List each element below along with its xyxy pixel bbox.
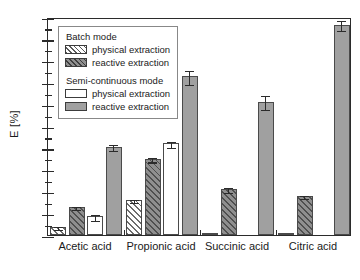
legend-item-batch-reactive: reactive extraction — [65, 57, 170, 68]
legend-item-semi-reactive: reactive extraction — [65, 101, 170, 112]
bar-batch_physical-3 — [278, 233, 294, 235]
x-axis-label-3: Citric acid — [258, 240, 360, 252]
legend-item-semi-physical: physical extraction — [65, 88, 170, 99]
x-axis-tick — [200, 230, 201, 235]
bar-semi_reactive-3 — [334, 25, 350, 235]
bar-semi_reactive-2 — [258, 102, 274, 235]
chart-legend: Batch mode physical extraction reactive … — [58, 26, 178, 119]
x-axis-tick — [276, 230, 277, 235]
bar-semi_reactive-0 — [106, 147, 122, 236]
legend-label-semi-reactive: reactive extraction — [92, 101, 169, 112]
legend-label-semi-physical: physical extraction — [92, 88, 170, 99]
legend-swatch-batch-physical — [65, 45, 87, 54]
x-axis-tick — [124, 230, 125, 235]
legend-label-batch-reactive: reactive extraction — [92, 57, 169, 68]
bar-batch_reactive-2 — [221, 189, 237, 235]
legend-item-batch-physical: physical extraction — [65, 44, 170, 55]
legend-label-batch-physical: physical extraction — [92, 44, 170, 55]
bar-batch_physical-2 — [202, 233, 218, 235]
bar-batch_physical-1 — [126, 200, 142, 235]
y-axis-label: E [%] — [8, 94, 20, 154]
bar-semi_physical-1 — [163, 143, 179, 235]
legend-swatch-semi-reactive — [65, 102, 87, 111]
legend-swatch-semi-physical — [65, 89, 87, 98]
bar-batch_reactive-0 — [69, 207, 85, 235]
legend-group-batch-title: Batch mode — [66, 31, 170, 42]
legend-group-semi-title: Semi-continuous mode — [66, 75, 170, 86]
legend-swatch-batch-reactive — [65, 58, 87, 67]
bar-chart: E [%] 0102030405060708090100 Batch mode … — [0, 0, 360, 280]
bar-batch_reactive-3 — [297, 196, 313, 235]
bar-semi_reactive-1 — [182, 76, 198, 235]
bar-batch_reactive-1 — [145, 159, 161, 235]
